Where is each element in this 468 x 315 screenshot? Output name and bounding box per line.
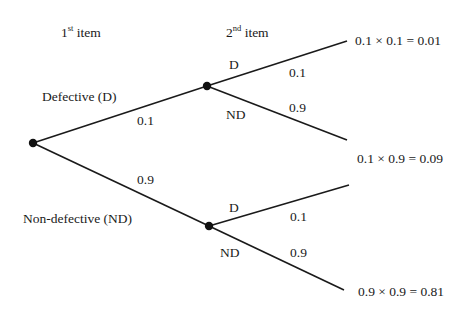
after-nd-nd-probability: 0.9 xyxy=(290,246,307,260)
after-d-nd-probability: 0.9 xyxy=(289,101,306,115)
defective-label: Defective (D) xyxy=(42,90,117,104)
header-first-item: 1st item xyxy=(61,26,101,40)
after-d-nd-label: ND xyxy=(226,108,246,122)
header-second-suffix: nd xyxy=(233,23,242,33)
header-second-number: 2 xyxy=(226,25,233,40)
outcome-d-d: 0.1 × 0.1 = 0.01 xyxy=(355,34,441,48)
non-defective-node xyxy=(205,222,213,230)
after-nd-d-label: D xyxy=(229,201,239,215)
non-defective-label: Non-defective (ND) xyxy=(23,212,132,226)
header-first-number: 1 xyxy=(61,25,68,40)
header-second-text: item xyxy=(241,25,268,40)
after-d-d-probability: 0.1 xyxy=(289,66,306,80)
non-defective-probability: 0.9 xyxy=(137,173,154,187)
after-nd-nd-label: ND xyxy=(220,246,240,260)
branch-d-then-d xyxy=(207,41,347,86)
root-node xyxy=(29,139,37,147)
probability-tree-diagram: 1st item 2nd item Defective (D) 0.1 0.9 … xyxy=(0,0,468,315)
after-d-d-label: D xyxy=(229,58,239,72)
header-second-item: 2nd item xyxy=(226,26,269,40)
header-first-text: item xyxy=(73,25,100,40)
defective-probability: 0.1 xyxy=(137,114,154,128)
header-first-suffix: st xyxy=(68,23,74,33)
defective-node xyxy=(203,82,211,90)
outcome-d-nd: 0.1 × 0.9 = 0.09 xyxy=(357,152,443,166)
after-nd-d-probability: 0.1 xyxy=(290,210,307,224)
outcome-nd-nd: 0.9 × 0.9 = 0.81 xyxy=(358,285,444,299)
